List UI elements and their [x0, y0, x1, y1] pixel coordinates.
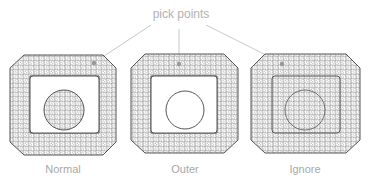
panel-outer: [131, 54, 238, 153]
panel-label-ignore: Ignore: [289, 163, 320, 175]
panel-label-normal: Normal: [45, 163, 80, 175]
pick-point-marker: [92, 61, 96, 65]
pick-points-diagram: [0, 0, 373, 187]
inner-circle-meshed: [44, 90, 84, 130]
outer-region-meshed: [251, 54, 360, 153]
pick-point-marker: [280, 62, 284, 66]
pick-point-marker: [177, 62, 181, 66]
panel-label-outer: Outer: [171, 163, 199, 175]
panel-normal: [10, 55, 116, 155]
panel-ignore: [251, 54, 360, 153]
inner-circle-unmeshed: [166, 91, 204, 129]
pick-points-label: pick points: [153, 7, 210, 21]
